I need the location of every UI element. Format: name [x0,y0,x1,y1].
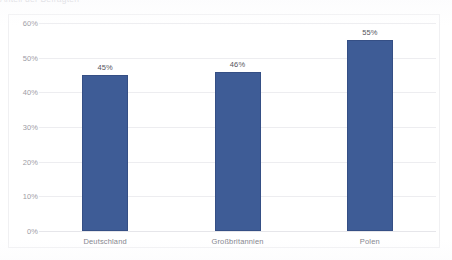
chart-panel: 0%10%20%30%40%50%60% 45%46%55% Deutschla… [8,14,440,248]
bar-deutschland[interactable] [82,75,128,231]
bar-group: 46% [215,23,261,231]
x-axis-tick-label: Polen [310,237,430,246]
x-axis-tick-label: Deutschland [45,237,165,246]
x-axis: DeutschlandGroßbritannienPolen [39,237,436,251]
plot-area: 45%46%55% [39,23,436,231]
x-axis-tick-label: Großbritannien [178,237,298,246]
y-axis: 0%10%20%30%40%50%60% [9,23,38,231]
y-axis-tick-label: 60% [10,19,38,28]
bar-value-label: 46% [215,60,261,69]
bar-polen[interactable] [347,40,393,231]
y-axis-tick-label: 30% [10,123,38,132]
bar-value-label: 45% [82,63,128,72]
bar-group: 45% [82,23,128,231]
y-axis-tick-label: 50% [10,53,38,62]
y-axis-tick-label: 0% [10,227,38,236]
chart-title-cropped: Anteil der Befragten [0,0,260,5]
y-axis-tick-label: 20% [10,157,38,166]
bar-value-label: 55% [347,28,393,37]
y-axis-tick-label: 10% [10,192,38,201]
gridline [39,231,436,232]
bar-group: 55% [347,23,393,231]
chart-title-text: Anteil der Befragten [0,0,260,5]
y-axis-tick-label: 40% [10,88,38,97]
bar-großbritannien[interactable] [215,72,261,231]
